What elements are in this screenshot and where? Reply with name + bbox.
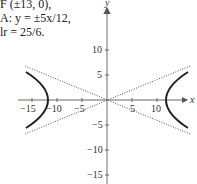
y-tick-label: 10 [92,44,102,55]
x-tick-label: −15 [20,103,36,114]
y-tick-label: −15 [87,169,103,180]
hyperbola-plot: x y −15 −10 −5 5 10 10 5 −5 −10 −15 [0,0,197,184]
y-tick-label: −5 [92,119,103,130]
y-axis-label: y [104,0,110,8]
x-tick-label: −5 [74,103,85,114]
x-tick-label: 5 [130,103,135,114]
x-axis-label: x [189,94,195,105]
x-tick-label: 10 [151,103,161,114]
y-tick-label: −10 [87,144,103,155]
y-tick-label: 5 [97,69,102,80]
